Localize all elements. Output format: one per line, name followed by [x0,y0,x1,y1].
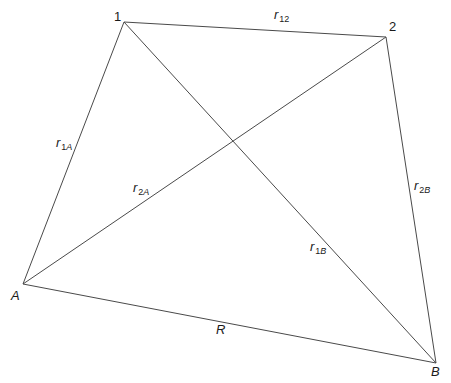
edge-r12 [124,22,386,37]
edge-r2A [23,37,386,284]
edge-r1A [23,22,124,284]
distance-label-r2B: r2B [414,179,430,192]
distance-subscript: 12 [279,14,289,24]
vertex-2-label: 2 [389,20,396,33]
distance-symbol: r [414,178,418,193]
distance-label-r1A: r1A [56,136,72,149]
distance-subscript-letter: A [66,142,72,152]
distance-symbol: r [133,180,137,195]
distance-symbol: R [216,322,225,337]
distance-label-R: R [216,323,225,336]
distance-subscript-letter: B [424,185,430,195]
vertex-A-label: A [11,289,20,302]
distance-symbol: r [310,239,314,254]
distance-subscript-letter: A [143,187,149,197]
distance-label-r1B: r1B [310,240,326,253]
distance-symbol: r [56,135,60,150]
distance-subscript-letter: B [320,246,326,256]
quadrilateral-diagram [0,0,451,383]
distance-label-r2A: r2A [133,181,149,194]
edge-r2B [386,37,436,363]
distance-symbol: r [274,7,278,22]
vertex-B-label: B [431,365,440,378]
vertex-1-label: 1 [114,10,121,23]
distance-label-r12: r12 [274,8,289,21]
